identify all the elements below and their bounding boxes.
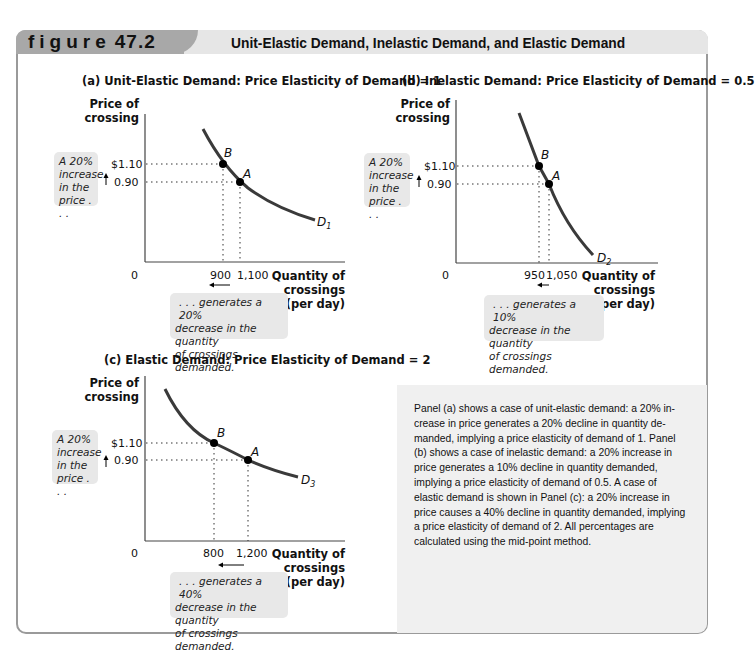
label-b-a: B: [224, 146, 232, 160]
panel-c-qty-left: 800: [203, 547, 224, 560]
up-arrow-head-b: [417, 175, 422, 180]
left-arrow-head-b: [537, 283, 542, 288]
panel-b-price-low: 0.90: [427, 178, 452, 191]
label-b-b: B: [541, 148, 549, 162]
panel-c-y-label: Price ofcrossing: [80, 376, 139, 404]
point-b-b: [535, 162, 543, 170]
label-d3: D3: [301, 473, 315, 489]
panel-a-title: (a) Unit-Elastic Demand: Price Elasticit…: [82, 74, 441, 88]
panel-a-y-label: Price ofcrossing: [80, 97, 139, 125]
panel-c-title: (c) Elastic Demand: Price Elasticity of …: [104, 353, 430, 367]
up-arrow-head-a: [104, 173, 109, 178]
panel-a-price-low: 0.90: [114, 176, 139, 189]
panel-a-price-callout: A 20%increasein theprice . . .: [54, 152, 98, 206]
label-a-c: A: [250, 445, 259, 459]
demand-curve-d2: [519, 113, 593, 255]
panel-c-price-callout: A 20%increasein theprice . . .: [52, 430, 98, 484]
panel-b-qty-right: 1,050: [546, 269, 578, 282]
panel-c-price-low: 0.90: [114, 454, 139, 467]
point-b-c: [210, 439, 218, 447]
label-d2: D2: [597, 251, 611, 267]
label-d1: D1: [317, 215, 331, 231]
panel-b-qty-left: 950: [524, 269, 545, 282]
panel-c-qty-callout: . . . generates a 40%decrease in the qua…: [170, 572, 288, 618]
panel-b-guides: [457, 166, 549, 263]
panel-b-title: (b) Inelastic Demand: Price Elasticity o…: [402, 74, 755, 88]
panel-c-qty-right: 1,200: [236, 547, 268, 560]
left-arrow-head-a: [209, 283, 214, 288]
panel-b-price-high: $1.10: [424, 160, 456, 173]
panel-b-origin: 0: [442, 269, 449, 282]
point-b-a: [219, 160, 227, 168]
panel-a-qty-right: 1,100: [237, 269, 269, 282]
demand-curve-d3: [165, 389, 298, 477]
demand-curve-d1: [203, 129, 315, 220]
panel-c-origin: 0: [131, 547, 138, 560]
label-b-c: B: [217, 426, 225, 440]
panel-a-guides: [146, 164, 240, 262]
panel-c-guides: [146, 443, 248, 541]
panel-a-axes: [145, 114, 345, 262]
panel-b-y-label: Price ofcrossing: [392, 97, 450, 125]
panel-b-qty-callout: . . . generates a 10%decrease in the qua…: [484, 295, 604, 341]
panel-c-price-high: $1.10: [111, 437, 143, 450]
up-arrow-head-c: [104, 455, 109, 460]
panel-a-origin: 0: [131, 269, 138, 282]
panel-a-qty-callout: . . . generates a 20%decrease in the qua…: [170, 293, 288, 339]
left-arrow-head-c: [218, 563, 223, 568]
label-a-a: A: [242, 167, 251, 181]
panel-a-qty-left: 900: [210, 269, 231, 282]
panel-b-price-callout: A 20%increasein theprice . . .: [364, 153, 410, 207]
panel-a-price-high: $1.10: [111, 158, 143, 171]
label-a-b: A: [551, 169, 560, 183]
